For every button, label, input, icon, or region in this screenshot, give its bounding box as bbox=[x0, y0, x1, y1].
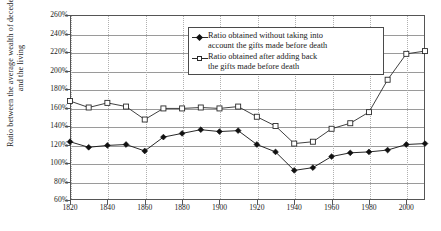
y-axis-tick-label: 100% bbox=[30, 159, 68, 167]
legend-label-1: Ratio obtained after adding back the gif… bbox=[208, 52, 317, 71]
data-point-marker-square bbox=[348, 121, 353, 126]
data-point-marker-diamond bbox=[329, 154, 335, 160]
data-point-marker-square bbox=[217, 106, 222, 111]
data-point-marker-diamond bbox=[347, 150, 353, 156]
legend-marker-open-square-icon bbox=[192, 53, 208, 64]
data-point-marker-diamond bbox=[366, 149, 372, 155]
data-point-marker-square bbox=[142, 117, 147, 122]
data-point-marker-diamond bbox=[422, 141, 428, 147]
data-point-marker-diamond bbox=[217, 129, 223, 135]
x-axis-tick-mark bbox=[182, 200, 183, 205]
data-point-marker-diamond bbox=[403, 142, 409, 148]
y-axis-tick-label: 180% bbox=[30, 85, 68, 93]
y-axis-tick-label: 220% bbox=[30, 48, 68, 56]
data-point-marker-square bbox=[180, 106, 185, 111]
data-point-marker-diamond bbox=[86, 144, 92, 150]
data-point-marker-diamond bbox=[198, 127, 204, 133]
x-axis-tick-mark bbox=[332, 200, 333, 205]
chart-legend: Ratio obtained without taking into accou… bbox=[188, 27, 384, 75]
data-point-marker-square bbox=[68, 99, 73, 104]
data-point-marker-square bbox=[423, 49, 428, 54]
data-point-marker-square bbox=[292, 141, 297, 146]
x-axis-tick-mark bbox=[219, 200, 220, 205]
data-point-marker-square bbox=[329, 126, 334, 131]
x-axis-tick-mark bbox=[70, 200, 71, 205]
x-axis-tick-mark bbox=[369, 200, 370, 205]
data-point-marker-diamond bbox=[123, 142, 129, 148]
data-point-marker-square bbox=[198, 105, 203, 110]
data-point-marker-diamond bbox=[104, 143, 110, 149]
y-axis-tick-label: 80% bbox=[30, 178, 68, 186]
data-point-marker-square bbox=[124, 104, 129, 109]
data-point-marker-diamond bbox=[179, 131, 185, 137]
y-axis-tick-label: 200% bbox=[30, 67, 68, 75]
y-axis-title: Ratio between the average wealth of dece… bbox=[6, 0, 26, 148]
data-point-marker-square bbox=[254, 114, 259, 119]
chart-root: Ratio between the average wealth of dece… bbox=[0, 0, 441, 231]
data-point-marker-square bbox=[404, 51, 409, 56]
y-axis-tick-label: 240% bbox=[30, 30, 68, 38]
x-axis-tick-mark bbox=[145, 200, 146, 205]
legend-label-0: Ratio obtained without taking into accou… bbox=[208, 31, 327, 50]
data-point-marker-square bbox=[236, 104, 241, 109]
x-axis-tick-mark bbox=[406, 200, 407, 205]
data-point-marker-square bbox=[366, 110, 371, 115]
y-axis-tick-label: 160% bbox=[30, 104, 68, 112]
legend-marker-filled-diamond-icon bbox=[192, 32, 208, 43]
data-point-marker-square bbox=[273, 124, 278, 129]
x-axis-tick-mark bbox=[294, 200, 295, 205]
legend-item-1: Ratio obtained after adding back the gif… bbox=[192, 52, 379, 71]
x-axis-tick-mark bbox=[107, 200, 108, 205]
y-axis-tick-label: 260% bbox=[30, 11, 68, 19]
data-point-marker-square bbox=[86, 105, 91, 110]
data-point-marker-square bbox=[310, 139, 315, 144]
data-point-marker-diamond bbox=[385, 147, 391, 153]
x-axis-tick-mark bbox=[257, 200, 258, 205]
data-point-marker-square bbox=[161, 106, 166, 111]
data-point-marker-square bbox=[385, 77, 390, 82]
data-point-marker-diamond bbox=[310, 165, 316, 171]
legend-item-0: Ratio obtained without taking into accou… bbox=[192, 31, 379, 50]
y-axis-tick-label: 140% bbox=[30, 122, 68, 130]
series-line bbox=[70, 130, 425, 171]
series-0 bbox=[67, 127, 428, 174]
data-point-marker-square bbox=[105, 100, 110, 105]
y-axis-tick-label: 120% bbox=[30, 141, 68, 149]
